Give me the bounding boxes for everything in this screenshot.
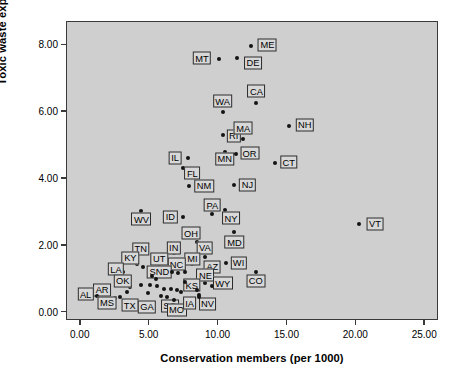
data-point-unlabeled-19 [165, 295, 169, 299]
point-label-ms: MS [97, 296, 116, 309]
data-point-unlabeled-3 [148, 283, 152, 287]
data-point-unlabeled-7 [169, 287, 173, 291]
point-label-wy: WY [213, 277, 233, 290]
point-label-de: DE [244, 56, 262, 69]
data-point-nm [187, 184, 191, 188]
data-point-de [235, 56, 239, 60]
data-point-co [254, 270, 258, 274]
data-point-mt [217, 57, 221, 61]
data-point-mo [172, 298, 176, 302]
data-point-il [186, 156, 190, 160]
point-label-oh: OH [182, 227, 201, 240]
x-tick-mark [217, 320, 219, 325]
point-label-wi: WI [230, 256, 246, 269]
point-label-mn: MN [215, 152, 234, 165]
point-label-fl: FL [184, 167, 200, 180]
data-point-va [203, 255, 207, 259]
x-tick-label: 0.00 [70, 329, 89, 340]
point-label-in: IN [167, 241, 181, 254]
data-point-vt [357, 222, 361, 226]
point-label-me: ME [258, 38, 277, 51]
data-point-unlabeled-15 [146, 291, 150, 295]
data-point-unlabeled-17 [125, 290, 129, 294]
data-point-wa [221, 110, 225, 114]
data-point-unlabeled-14 [197, 295, 201, 299]
data-point-unlabeled-10 [183, 280, 187, 284]
data-point-unlabeled-9 [179, 290, 183, 294]
y-tick-label: 0.00 [24, 306, 58, 317]
y-axis-title: Toxic waste expenditures [0, 0, 8, 96]
y-tick-mark [61, 44, 66, 46]
data-point-ri [221, 133, 225, 137]
data-point-ca [254, 101, 258, 105]
data-point-nh [287, 124, 291, 128]
x-tick-label: 5.00 [139, 329, 158, 340]
point-label-or: OR [240, 147, 259, 160]
x-tick-label: 20.00 [343, 329, 368, 340]
y-tick-mark [61, 311, 66, 313]
point-label-wv: WV [131, 213, 151, 226]
scatter-plot-figure: Toxic waste expenditures MEMTDECAWANHRIM… [0, 0, 453, 377]
data-point-unlabeled-18 [118, 295, 122, 299]
point-label-ia: IA [183, 297, 197, 310]
point-label-mi: MI [185, 252, 200, 265]
data-point-ne [203, 281, 207, 285]
point-label-ca: CA [247, 85, 265, 98]
point-label-ut: UT [151, 252, 168, 265]
data-point-nj [232, 183, 236, 187]
point-label-al: AL [77, 288, 93, 301]
point-label-wa: WA [213, 95, 233, 108]
x-tick-mark [423, 320, 425, 325]
x-tick-mark [148, 320, 150, 325]
point-label-ma: MA [234, 122, 253, 135]
data-point-ma [241, 137, 245, 141]
data-point-unlabeled-13 [183, 270, 187, 274]
y-tick-label: 2.00 [24, 239, 58, 250]
data-point-unlabeled-16 [159, 294, 163, 298]
data-point-md [232, 230, 236, 234]
y-tick-mark [61, 177, 66, 179]
x-tick-mark [286, 320, 288, 325]
point-label-ny: NY [222, 212, 240, 225]
x-tick-label: 10.00 [205, 329, 230, 340]
data-point-unlabeled-6 [162, 287, 166, 291]
y-tick-mark [61, 244, 66, 246]
point-label-vt: VT [366, 217, 383, 230]
y-tick-label: 4.00 [24, 173, 58, 184]
data-point-unlabeled-12 [170, 270, 174, 274]
data-point-ct [273, 161, 277, 165]
data-point-unlabeled-0 [141, 265, 145, 269]
x-axis-title: Conservation members (per 1000) [66, 352, 438, 364]
data-point-unlabeled-5 [139, 283, 143, 287]
y-tick-mark [61, 110, 66, 112]
point-label-id: ID [163, 210, 177, 223]
point-label-tx: TX [121, 299, 138, 312]
point-label-il: IL [169, 151, 182, 164]
data-point-unlabeled-2 [154, 277, 158, 281]
data-point-me [249, 44, 253, 48]
data-point-pa [210, 212, 214, 216]
y-tick-label: 8.00 [24, 39, 58, 50]
data-point-wi [224, 261, 228, 265]
x-tick-mark [355, 320, 357, 325]
point-label-co: CO [246, 274, 265, 287]
data-points-layer: MEMTDECAWANHRIMAMNORCTILFLNMNJPANYWVIDVT… [67, 22, 437, 319]
point-label-ga: GA [138, 300, 156, 313]
point-label-nj: NJ [239, 178, 255, 191]
data-point-unlabeled-4 [155, 284, 159, 288]
data-point-id [181, 215, 185, 219]
x-tick-label: 15.00 [274, 329, 299, 340]
data-point-nc [176, 271, 180, 275]
y-tick-label: 6.00 [24, 106, 58, 117]
x-tick-label: 25.00 [412, 329, 437, 340]
plot-area: MEMTDECAWANHRIMAMNORCTILFLNMNJPANYWVIDVT… [66, 21, 438, 320]
point-label-nv: NV [199, 297, 217, 310]
point-label-ok: OK [114, 274, 132, 287]
point-label-md: MD [225, 236, 244, 249]
point-label-nm: NM [194, 179, 213, 192]
data-point-or [234, 152, 238, 156]
x-tick-mark [79, 320, 81, 325]
point-label-ct: CT [280, 156, 297, 169]
data-point-unlabeled-11 [195, 288, 199, 292]
point-label-ky: KY [122, 251, 139, 264]
